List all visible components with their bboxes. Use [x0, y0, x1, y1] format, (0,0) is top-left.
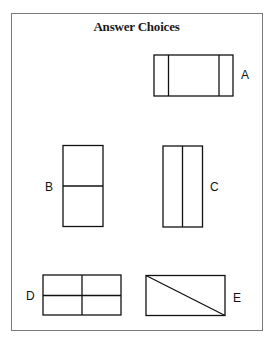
- choice-b-figure[interactable]: [63, 146, 103, 227]
- choice-c-figure[interactable]: [163, 146, 203, 227]
- choice-e-diagonal: [146, 276, 225, 316]
- choice-c-label[interactable]: C: [210, 180, 219, 194]
- choice-b-label[interactable]: B: [45, 180, 53, 194]
- choice-a-label[interactable]: A: [241, 68, 249, 82]
- choice-d-figure[interactable]: [43, 275, 121, 315]
- choice-a-figure[interactable]: [154, 55, 233, 96]
- choice-e-figure[interactable]: [146, 276, 225, 316]
- figures-canvas: A B C D E: [0, 0, 273, 341]
- choice-e-label[interactable]: E: [233, 291, 241, 305]
- choice-d-label[interactable]: D: [26, 289, 35, 303]
- choice-a-outline: [154, 55, 233, 96]
